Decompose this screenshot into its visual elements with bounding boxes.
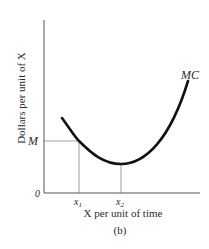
origin-label: 0 — [35, 188, 40, 199]
x-axis-label: X per unit of time — [84, 207, 163, 219]
m-tick-label: M — [27, 134, 39, 148]
y-axis-label: Dollars per unit of X — [15, 52, 27, 144]
marginal-cost-chart: MC M 0 x1 x2 X per unit of time (b) Doll… — [0, 0, 209, 249]
panel-label: (b) — [114, 224, 127, 237]
mc-label: MC — [180, 68, 200, 82]
mc-curve — [62, 81, 188, 164]
x1-tick-label: x1 — [73, 196, 82, 209]
